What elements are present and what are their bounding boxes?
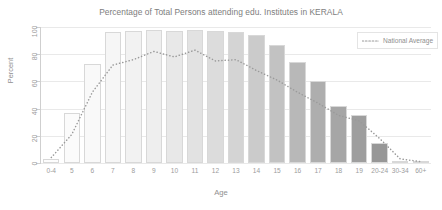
y-tick-label: 100 — [31, 26, 38, 50]
x-tick-label: 11 — [192, 167, 199, 174]
legend-label: National Average — [383, 37, 433, 44]
x-tick-label: 8 — [132, 167, 136, 174]
x-tick-label: 17 — [314, 167, 321, 174]
x-tick-label: 18 — [335, 167, 342, 174]
legend: National Average — [357, 32, 438, 49]
x-tick-label: 6 — [90, 167, 94, 174]
x-tick-label: 12 — [212, 167, 219, 174]
x-axis-title: Age — [0, 188, 442, 197]
y-tick-label: 40 — [31, 107, 38, 131]
national-average-polyline — [51, 50, 420, 162]
x-tick-label: 19 — [355, 167, 362, 174]
x-tick-label: 7 — [111, 167, 115, 174]
y-tick-label: 60 — [31, 80, 38, 104]
chart-title: Percentage of Total Persons attending ed… — [0, 7, 442, 17]
x-tick-label: 30-34 — [392, 167, 409, 174]
x-tick-label: 14 — [253, 167, 260, 174]
x-tick-label: 16 — [294, 167, 301, 174]
y-axis-title: Percent — [6, 58, 15, 83]
x-tick-label: 15 — [273, 167, 280, 174]
x-tick-label: 5 — [70, 167, 74, 174]
chart-container: Percentage of Total Persons attending ed… — [0, 0, 442, 210]
x-tick-label: 13 — [232, 167, 239, 174]
y-tick-label: 0 — [31, 162, 38, 186]
legend-dotted-line-icon — [362, 38, 379, 44]
x-tick-label: 20-24 — [371, 167, 388, 174]
y-tick-label: 20 — [31, 134, 38, 158]
x-tick-label: 9 — [152, 167, 156, 174]
x-tick-label: 60+ — [415, 167, 426, 174]
y-tick-label: 80 — [31, 53, 38, 77]
x-tick-label: 10 — [171, 167, 178, 174]
x-tick-label: 0-4 — [46, 167, 56, 174]
gridline — [41, 163, 431, 164]
